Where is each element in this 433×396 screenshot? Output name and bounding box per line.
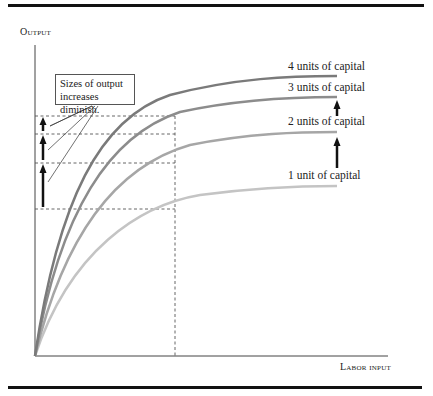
- reference-lines: [35, 116, 175, 356]
- series-label-3-units: 3 units of capital: [288, 81, 365, 93]
- annotation-line-2: increases diminish.: [60, 90, 134, 116]
- annotation-box: Sizes of output increases diminish.: [55, 74, 135, 105]
- curve-3-units: [35, 97, 337, 356]
- series-label-2-units: 2 units of capital: [288, 115, 365, 127]
- callout-pointers: [48, 106, 98, 182]
- series-label-1-unit: 1 unit of capital: [288, 169, 361, 181]
- y-axis-label: Output: [20, 26, 51, 37]
- x-axis-label: Labor input: [340, 361, 391, 372]
- arrow-icon-left-group: [40, 117, 47, 207]
- arrow-icon-right-group: [334, 100, 341, 168]
- series-label-4-units: 4 units of capital: [288, 60, 365, 72]
- curve-2-units: [35, 132, 337, 356]
- annotation-line-1: Sizes of output: [60, 77, 134, 90]
- curve-1-unit: [35, 186, 337, 356]
- production-chart: [0, 0, 433, 396]
